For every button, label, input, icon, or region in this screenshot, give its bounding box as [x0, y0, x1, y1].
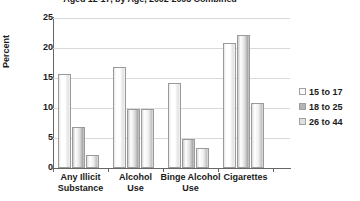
legend-swatch-icon-2	[299, 103, 306, 110]
y-axis-title: Percent	[1, 35, 11, 68]
bar-1-1	[58, 74, 71, 168]
y-tick-label-5: 5	[31, 133, 53, 142]
legend-item-1[interactable]: 15 to 17	[299, 84, 359, 99]
x-category-label-line1: Cigarettes	[211, 172, 281, 183]
bar-4-2	[237, 35, 250, 168]
legend-swatch-icon-3	[299, 118, 306, 125]
bar-2-2	[127, 109, 140, 168]
bar-group-3	[168, 18, 210, 168]
bar-3-2	[182, 139, 195, 168]
y-tick-label-20: 20	[31, 43, 53, 52]
plot-area	[53, 18, 290, 168]
legend-item-2[interactable]: 18 to 25	[299, 99, 359, 114]
bar-1-3	[86, 155, 99, 168]
x-axis-line	[53, 168, 291, 169]
legend-item-3[interactable]: 26 to 44	[299, 114, 359, 129]
bar-2-3	[141, 109, 154, 168]
bar-group-2	[113, 18, 155, 168]
bar-group-1	[58, 18, 100, 168]
y-tick-label-15: 15	[31, 73, 53, 82]
bar-1-2	[72, 127, 85, 168]
legend-swatch-icon-1	[299, 88, 306, 95]
legend-label-2: 18 to 25	[309, 102, 343, 112]
chart-legend: 15 to 1718 to 2526 to 44	[299, 84, 359, 129]
x-category-label-4: Cigarettes	[211, 172, 281, 183]
y-tick-label-25: 25	[31, 13, 53, 22]
bar-2-1	[113, 67, 126, 168]
legend-label-1: 15 to 17	[309, 87, 343, 97]
bar-3-1	[168, 83, 181, 168]
y-tick-label-10: 10	[31, 103, 53, 112]
bar-4-1	[223, 43, 236, 168]
legend-label-3: 26 to 44	[309, 117, 343, 127]
y-axis-tick-labels: 2520151050	[25, 0, 53, 201]
x-category-label-line2: Use	[156, 183, 226, 194]
bar-3-3	[196, 148, 209, 168]
bar-group-4	[223, 18, 265, 168]
y-tick-label-0: 0	[31, 163, 53, 172]
bar-4-3	[251, 103, 264, 168]
